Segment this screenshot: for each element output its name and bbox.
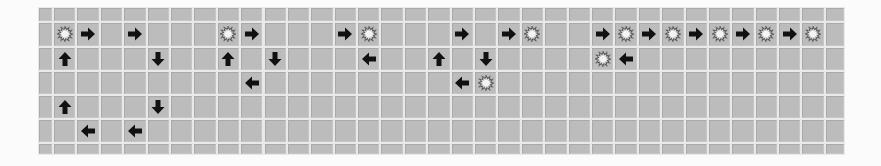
grid-cell-r0-c1[interactable]	[54, 8, 75, 21]
grid-cell-r2-c9[interactable]	[241, 48, 262, 70]
grid-cell-r2-c11[interactable]	[288, 48, 309, 70]
grid-cell-r1-c7[interactable]	[194, 23, 215, 46]
grid-cell-r3-c12[interactable]	[311, 72, 332, 94]
grid-cell-r0-c17[interactable]	[428, 8, 449, 21]
grid-cell-r6-c1[interactable]	[54, 144, 75, 155]
grid-cell-r1-c26[interactable]	[639, 23, 660, 46]
grid-cell-r0-c4[interactable]	[124, 8, 145, 21]
grid-cell-r1-c3[interactable]	[101, 23, 122, 46]
grid-cell-r6-c34[interactable]	[826, 144, 844, 155]
grid-cell-r1-c32[interactable]	[779, 23, 800, 46]
grid-cell-r6-c16[interactable]	[405, 144, 426, 155]
grid-cell-r1-c4[interactable]	[124, 23, 145, 46]
grid-cell-r6-c4[interactable]	[124, 144, 145, 155]
grid-cell-r0-c22[interactable]	[545, 8, 566, 21]
grid-cell-r2-c17[interactable]	[428, 48, 449, 70]
grid-cell-r4-c31[interactable]	[756, 96, 777, 118]
grid-cell-r2-c34[interactable]	[826, 48, 844, 70]
grid-cell-r0-c10[interactable]	[265, 8, 286, 21]
grid-cell-r4-c3[interactable]	[101, 96, 122, 118]
grid-cell-r2-c20[interactable]	[498, 48, 519, 70]
grid-cell-r6-c11[interactable]	[288, 144, 309, 155]
grid-cell-r3-c6[interactable]	[171, 72, 192, 94]
grid-cell-r3-c31[interactable]	[756, 72, 777, 94]
grid-cell-r6-c9[interactable]	[241, 144, 262, 155]
grid-cell-r6-c17[interactable]	[428, 144, 449, 155]
grid-cell-r6-c7[interactable]	[194, 144, 215, 155]
grid-cell-r2-c7[interactable]	[194, 48, 215, 70]
grid-cell-r2-c30[interactable]	[732, 48, 753, 70]
grid-cell-r5-c6[interactable]	[171, 120, 192, 142]
grid-cell-r4-c32[interactable]	[779, 96, 800, 118]
grid-cell-r2-c29[interactable]	[709, 48, 730, 70]
grid-cell-r1-c34[interactable]	[826, 23, 844, 46]
grid-cell-r0-c27[interactable]	[662, 8, 683, 21]
grid-cell-r2-c16[interactable]	[405, 48, 426, 70]
grid-cell-r2-c32[interactable]	[779, 48, 800, 70]
grid-cell-r6-c21[interactable]	[522, 144, 543, 155]
grid-cell-r3-c21[interactable]	[522, 72, 543, 94]
grid-cell-r5-c32[interactable]	[779, 120, 800, 142]
grid-cell-r5-c4[interactable]	[124, 120, 145, 142]
grid-cell-r0-c28[interactable]	[686, 8, 707, 21]
grid-cell-r3-c11[interactable]	[288, 72, 309, 94]
grid-cell-r3-c30[interactable]	[732, 72, 753, 94]
grid-cell-r2-c0[interactable]	[39, 48, 52, 70]
grid-cell-r5-c3[interactable]	[101, 120, 122, 142]
grid-cell-r6-c3[interactable]	[101, 144, 122, 155]
grid-cell-r3-c33[interactable]	[802, 72, 823, 94]
grid-cell-r0-c29[interactable]	[709, 8, 730, 21]
grid-cell-r6-c32[interactable]	[779, 144, 800, 155]
grid-cell-r5-c5[interactable]	[148, 120, 169, 142]
grid-cell-r1-c14[interactable]	[358, 23, 379, 46]
grid-cell-r6-c23[interactable]	[569, 144, 590, 155]
grid-cell-r4-c6[interactable]	[171, 96, 192, 118]
grid-cell-r0-c32[interactable]	[779, 8, 800, 21]
grid-cell-r3-c18[interactable]	[452, 72, 473, 94]
grid-cell-r0-c34[interactable]	[826, 8, 844, 21]
grid-cell-r1-c31[interactable]	[756, 23, 777, 46]
grid-cell-r3-c14[interactable]	[358, 72, 379, 94]
grid-cell-r0-c7[interactable]	[194, 8, 215, 21]
grid-cell-r1-c12[interactable]	[311, 23, 332, 46]
grid-cell-r0-c3[interactable]	[101, 8, 122, 21]
grid-cell-r0-c13[interactable]	[335, 8, 356, 21]
grid-cell-r0-c24[interactable]	[592, 8, 613, 21]
grid-cell-r1-c11[interactable]	[288, 23, 309, 46]
grid-cell-r3-c0[interactable]	[39, 72, 52, 94]
grid-cell-r5-c0[interactable]	[39, 120, 52, 142]
grid-cell-r2-c27[interactable]	[662, 48, 683, 70]
grid-cell-r1-c23[interactable]	[569, 23, 590, 46]
grid-cell-r4-c2[interactable]	[77, 96, 98, 118]
grid-cell-r0-c8[interactable]	[218, 8, 239, 21]
grid-cell-r6-c31[interactable]	[756, 144, 777, 155]
grid-cell-r1-c8[interactable]	[218, 23, 239, 46]
grid-cell-r1-c24[interactable]	[592, 23, 613, 46]
grid-cell-r5-c29[interactable]	[709, 120, 730, 142]
grid-cell-r2-c14[interactable]	[358, 48, 379, 70]
grid-cell-r4-c12[interactable]	[311, 96, 332, 118]
grid-cell-r4-c26[interactable]	[639, 96, 660, 118]
grid-cell-r5-c20[interactable]	[498, 120, 519, 142]
grid-cell-r4-c20[interactable]	[498, 96, 519, 118]
grid-cell-r1-c18[interactable]	[452, 23, 473, 46]
grid-cell-r2-c13[interactable]	[335, 48, 356, 70]
grid-cell-r2-c31[interactable]	[756, 48, 777, 70]
grid-cell-r6-c5[interactable]	[148, 144, 169, 155]
grid-cell-r2-c26[interactable]	[639, 48, 660, 70]
grid-cell-r2-c25[interactable]	[615, 48, 636, 70]
grid-cell-r4-c22[interactable]	[545, 96, 566, 118]
grid-cell-r3-c27[interactable]	[662, 72, 683, 94]
grid-cell-r6-c33[interactable]	[802, 144, 823, 155]
grid-cell-r0-c5[interactable]	[148, 8, 169, 21]
grid-cell-r4-c23[interactable]	[569, 96, 590, 118]
grid-cell-r0-c14[interactable]	[358, 8, 379, 21]
grid-cell-r1-c15[interactable]	[381, 23, 402, 46]
grid-cell-r6-c19[interactable]	[475, 144, 496, 155]
grid-cell-r5-c21[interactable]	[522, 120, 543, 142]
grid-cell-r0-c16[interactable]	[405, 8, 426, 21]
grid-cell-r1-c10[interactable]	[265, 23, 286, 46]
grid-cell-r6-c10[interactable]	[265, 144, 286, 155]
grid-cell-r6-c28[interactable]	[686, 144, 707, 155]
grid-cell-r5-c28[interactable]	[686, 120, 707, 142]
